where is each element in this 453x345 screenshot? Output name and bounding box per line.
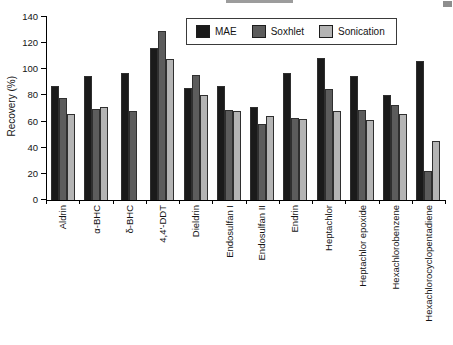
bar-mae	[350, 76, 358, 200]
x-tick-mark	[312, 201, 313, 204]
bar-group	[412, 17, 445, 200]
bar-soxhlet	[325, 89, 333, 200]
x-category-label-text: 4,4'-DDT	[157, 205, 168, 243]
x-category-label-text: α-BHC	[90, 205, 101, 234]
x-category-label-text: Aldrin	[57, 205, 68, 229]
bar-group	[46, 17, 79, 200]
legend-swatch	[196, 25, 210, 38]
x-category-label-text: Hexachlorocyclopentadiene	[423, 205, 434, 322]
x-category-label-text: Endrin	[290, 205, 301, 232]
bar-mae	[217, 86, 225, 200]
bar-mae	[84, 76, 92, 200]
y-tick-label: 100	[22, 64, 38, 74]
bar-sonication	[333, 111, 341, 200]
y-tick-label: 0	[33, 195, 38, 205]
bar-group	[146, 17, 179, 200]
legend: MAESoxhletSonication	[186, 18, 397, 45]
x-tick-mark	[279, 201, 280, 204]
x-tick-mark	[345, 201, 346, 204]
y-tick-label: 120	[22, 38, 38, 48]
legend-swatch	[252, 25, 266, 38]
bar-mae	[121, 73, 129, 200]
bar-sonication	[299, 119, 307, 200]
x-category-label-text: Heptachlor epoxide	[356, 205, 367, 287]
page-crop-artifact	[226, 0, 293, 3]
legend-label: Sonication	[338, 26, 385, 37]
y-axis: 020406080100120140	[0, 17, 46, 200]
x-tick-mark	[46, 201, 47, 204]
x-category-label-text: δ-BHC	[124, 205, 135, 234]
bar-sonication	[432, 141, 440, 200]
legend-swatch	[319, 25, 333, 38]
bar-soxhlet	[129, 111, 137, 200]
bar-sonication	[166, 59, 174, 200]
x-tick-mark	[212, 201, 213, 204]
legend-item-soxhlet: Soxhlet	[252, 25, 304, 38]
legend-item-mae: MAE	[196, 25, 237, 38]
x-category-label-text: Hexachlorobenzene	[390, 205, 401, 290]
bar-mae	[416, 61, 424, 200]
figure-bar-chart: Recovery (%) 020406080100120140 Aldrinα-…	[0, 0, 453, 345]
x-category-label-text: Dieldrin	[190, 205, 201, 237]
legend-label: MAE	[215, 26, 237, 37]
bar-soxhlet	[391, 105, 399, 200]
y-tick-label: 40	[27, 143, 38, 153]
bar-mae	[383, 95, 391, 200]
x-tick-mark	[146, 201, 147, 204]
legend-item-sonication: Sonication	[319, 25, 385, 38]
bar-soxhlet	[92, 109, 100, 201]
bar-soxhlet	[258, 124, 266, 200]
bar-soxhlet	[291, 118, 299, 200]
bar-mae	[317, 58, 325, 200]
bar-sonication	[200, 95, 208, 200]
bar-sonication	[399, 114, 407, 200]
x-tick-mark	[179, 201, 180, 204]
bar-group	[113, 17, 146, 200]
bar-mae	[283, 73, 291, 200]
x-tick-mark	[113, 201, 114, 204]
x-tick-mark	[412, 201, 413, 204]
bar-group	[79, 17, 112, 200]
bar-sonication	[266, 116, 274, 200]
x-tick-mark	[379, 201, 380, 204]
bar-sonication	[67, 114, 75, 200]
bar-mae	[250, 107, 258, 200]
bar-mae	[184, 88, 192, 200]
bar-soxhlet	[59, 98, 67, 200]
x-tick-mark	[445, 201, 446, 204]
x-category-label-text: Heptachlor	[323, 205, 334, 251]
x-tick-mark	[246, 201, 247, 204]
y-tick-label: 20	[27, 169, 38, 179]
bar-soxhlet	[158, 31, 166, 200]
bar-mae	[150, 48, 158, 200]
y-tick-label: 80	[27, 90, 38, 100]
bar-soxhlet	[225, 110, 233, 200]
bar-sonication	[100, 107, 108, 200]
bar-sonication	[366, 120, 374, 200]
x-category-label-text: Endosulfan II	[257, 205, 268, 260]
bar-soxhlet	[424, 171, 432, 200]
page-number-artifact	[443, 1, 452, 7]
bar-sonication	[233, 111, 241, 200]
legend-label: Soxhlet	[271, 26, 304, 37]
x-category-label-text: Endosulfan I	[223, 205, 234, 258]
y-tick-label: 60	[27, 117, 38, 127]
bar-mae	[51, 86, 59, 200]
bar-soxhlet	[192, 75, 200, 200]
bar-soxhlet	[358, 110, 366, 200]
x-tick-mark	[79, 201, 80, 204]
y-tick-label: 140	[22, 12, 38, 22]
